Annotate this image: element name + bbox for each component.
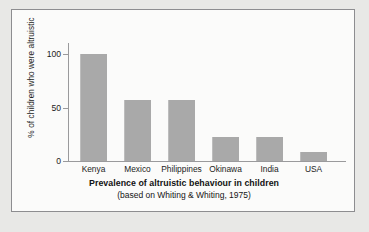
x-tick-label: USA — [274, 164, 354, 174]
bar — [300, 152, 327, 161]
bar — [124, 100, 151, 161]
y-axis-title: % of children who were altruistic — [27, 12, 36, 144]
y-tick-mark — [63, 108, 69, 109]
y-tick-mark — [63, 161, 69, 162]
bar — [212, 137, 239, 161]
chart-title: Prevalence of altruistic behaviour in ch… — [12, 178, 356, 188]
bar — [256, 137, 283, 161]
chart-plot-area: % of children who were altruistic 050100… — [12, 10, 356, 170]
y-tick-label: 100 — [21, 49, 61, 59]
bar — [168, 100, 195, 161]
bar — [80, 54, 107, 161]
chart-source-note: (based on Whiting & Whiting, 1975) — [12, 190, 356, 200]
y-tick-label: 50 — [21, 103, 61, 113]
figure-panel: % of children who were altruistic 050100… — [11, 9, 355, 212]
chart-caption: Prevalence of altruistic behaviour in ch… — [12, 178, 356, 200]
y-axis-line — [68, 43, 69, 162]
x-axis-line — [68, 161, 346, 162]
y-tick-mark — [63, 54, 69, 55]
